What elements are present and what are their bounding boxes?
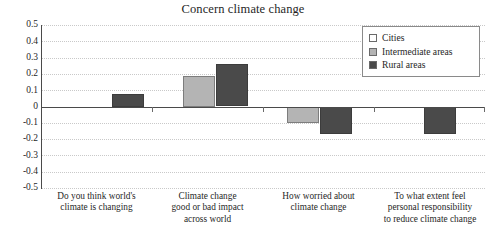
gridline [41,90,485,91]
legend-label-intermediate-areas: Intermediate areas [382,47,453,57]
y-tick-label: -0.1 [2,118,38,128]
x-category-label-4: To what extent feel personal responsibil… [374,191,486,225]
legend-swatch-icon-intermediate-areas [369,48,377,56]
bar-intermediate-group2 [183,76,215,107]
x-axis-tick [484,107,485,112]
x-category-line: climate change [263,202,374,213]
gridline [41,188,485,189]
gridline [41,155,485,156]
y-tick-label: 0 [2,102,38,112]
gridline [41,139,485,140]
x-category-line: good or bad impact [152,202,263,213]
x-category-line: climate is changing [41,202,152,213]
y-axis-line [41,25,42,189]
x-category-line: To what extent feel [374,191,486,202]
x-category-label-1: Do you think world's climate is changing [41,191,152,214]
x-category-label-2: Climate change good or bad impact across… [152,191,263,225]
bar-intermediate-group3 [287,107,319,123]
legend-label-rural-areas: Rural areas [382,60,425,70]
x-category-line: to reduce climate change [374,214,486,225]
y-tick-label: -0.2 [2,134,38,144]
legend-label-cities: Cities [382,33,404,43]
y-tick-label: -0.5 [2,183,38,193]
bar-rural-group3 [320,107,352,135]
x-axis-tick [374,107,375,112]
y-tick-label: 0.2 [2,69,38,79]
y-tick-label: -0.4 [2,167,38,177]
y-tick-label: 0.4 [2,37,38,47]
x-category-line: across world [152,214,263,225]
legend-item-cities: Cities [369,32,474,45]
chart-title: Concern climate change [0,2,486,17]
x-axis-tick [263,107,264,112]
x-category-line: personal responsibility [374,202,486,213]
chart-legend: Cities Intermediate areas Rural areas [362,26,480,77]
gridline [41,172,485,173]
y-tick-label: 0.1 [2,86,38,96]
x-category-line: How worried about [263,191,374,202]
legend-swatch-icon-rural-areas [369,61,377,69]
bar-rural-group1 [112,94,144,107]
legend-item-rural-areas: Rural areas [369,59,474,72]
bar-rural-group4 [424,107,456,135]
x-category-line: Do you think world's [41,191,152,202]
y-tick-label: 0.5 [2,20,38,30]
x-axis-tick [152,107,153,112]
x-axis-category-labels: Do you think world's climate is changing… [41,191,485,241]
x-category-label-3: How worried about climate change [263,191,374,214]
x-category-line: Climate change [152,191,263,202]
y-tick-label: -0.3 [2,151,38,161]
bar-chart: Concern climate change 0.5 0.4 0.3 0.2 0… [0,0,486,241]
gridline [41,123,485,124]
legend-item-intermediate-areas: Intermediate areas [369,45,474,58]
y-axis-tick-labels: 0.5 0.4 0.3 0.2 0.1 0 -0.1 -0.2 -0.3 -0.… [0,25,38,188]
legend-swatch-icon-cities [369,34,377,42]
bar-rural-group2 [216,64,248,106]
y-tick-label: 0.3 [2,53,38,63]
